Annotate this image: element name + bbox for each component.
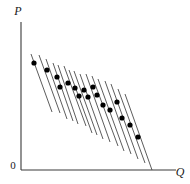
chart-background: [0, 0, 190, 184]
origin-label: 0: [10, 159, 16, 171]
equilibrium-point: [135, 134, 140, 139]
equilibrium-point: [114, 99, 119, 104]
x-axis-label: Q: [176, 165, 185, 179]
equilibrium-point: [94, 92, 99, 97]
equilibrium-point: [85, 94, 90, 99]
equilibrium-point: [57, 84, 62, 89]
equilibrium-point: [65, 80, 70, 85]
equilibrium-point: [81, 87, 86, 92]
equilibrium-point: [31, 60, 36, 65]
equilibrium-point: [127, 122, 132, 127]
equilibrium-point: [76, 93, 81, 98]
equilibrium-point: [90, 84, 95, 89]
price-quantity-chart: P Q 0: [0, 0, 190, 184]
equilibrium-point: [44, 67, 49, 72]
equilibrium-point: [54, 74, 59, 79]
equilibrium-point: [72, 85, 77, 90]
equilibrium-point: [100, 102, 105, 107]
y-axis-label: P: [13, 4, 22, 18]
equilibrium-point: [107, 107, 112, 112]
figure-container: P Q 0: [0, 0, 190, 184]
equilibrium-point: [119, 115, 124, 120]
